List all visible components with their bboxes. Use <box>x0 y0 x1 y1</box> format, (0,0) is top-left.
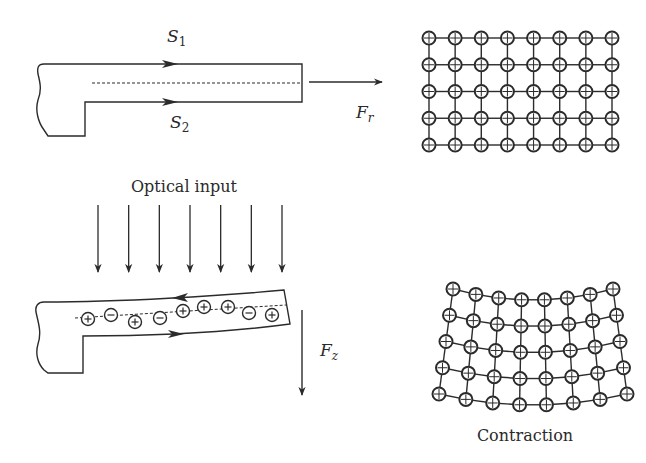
positive-charge <box>82 313 95 326</box>
lattice-atom <box>567 396 580 409</box>
lattice-atom <box>540 398 553 411</box>
lattice-atom <box>447 283 460 296</box>
negative-charge <box>243 307 256 320</box>
lattice-atom <box>606 58 619 71</box>
lattice-atom <box>501 112 514 125</box>
lattice-atom <box>606 139 619 152</box>
negative-charge <box>105 309 118 322</box>
lattice-atom <box>469 288 482 301</box>
charge-distribution <box>82 301 279 329</box>
lattice-atom <box>564 344 577 357</box>
lattice-atom <box>591 367 604 380</box>
lattice-atom <box>513 398 526 411</box>
lattice-atom <box>459 393 472 406</box>
lattice-atom <box>475 32 488 45</box>
lattice-atom <box>579 32 592 45</box>
lattice-atom <box>475 85 488 98</box>
lattice-atom <box>614 335 627 348</box>
lattice-atom <box>443 309 456 322</box>
lattice-atom <box>579 85 592 98</box>
lattice-atom <box>475 112 488 125</box>
lattice-atom <box>589 340 602 353</box>
optical-input-label: Optical input <box>131 177 238 196</box>
lattice-atom <box>449 112 462 125</box>
lattice-atom <box>553 85 566 98</box>
lattice-atom <box>594 393 607 406</box>
lattice-atom <box>423 85 436 98</box>
lattice-atom <box>423 32 436 45</box>
label-s2-sub: 2 <box>182 121 190 135</box>
lattice-atom <box>527 112 540 125</box>
lattice-atom <box>584 288 597 301</box>
lattice-atom <box>501 139 514 152</box>
lattice-atom <box>562 318 575 331</box>
lattice-atom <box>501 85 514 98</box>
lattice-atom <box>539 346 552 359</box>
lattice-atom <box>449 58 462 71</box>
positive-charge <box>198 301 211 314</box>
top-lattice-grid <box>423 32 619 152</box>
lattice-atom <box>553 112 566 125</box>
lattice-atom <box>579 139 592 152</box>
label-s1-sub: 1 <box>179 35 187 49</box>
lattice-atom <box>606 32 619 45</box>
lattice-atom <box>527 58 540 71</box>
label-fr-sub: r <box>368 111 375 125</box>
lattice-atom <box>449 32 462 45</box>
top-cantilever: S1 S2 Fr <box>37 26 382 136</box>
lattice-atom <box>514 372 527 385</box>
lattice-atom <box>462 367 475 380</box>
lattice-atom <box>433 388 446 401</box>
lattice-atom <box>440 335 453 348</box>
lattice-atom <box>489 344 502 357</box>
lattice-atom <box>565 370 578 383</box>
label-fr: Fr <box>355 102 375 125</box>
lattice-atom <box>467 314 480 327</box>
lattice-atom <box>501 32 514 45</box>
lattice-atom <box>423 139 436 152</box>
bottom-cantilever: Optical input Fz <box>36 177 339 395</box>
lattice-atom <box>423 112 436 125</box>
lattice-atom <box>449 139 462 152</box>
positive-charge <box>222 301 235 314</box>
lattice-atom <box>464 340 477 353</box>
lattice-atom <box>606 85 619 98</box>
lattice-atom <box>492 291 505 304</box>
lattice-atom <box>515 320 528 333</box>
lattice-atom <box>527 139 540 152</box>
lattice-atom <box>561 291 574 304</box>
lattice-atom <box>475 58 488 71</box>
lattice-atom <box>538 293 551 306</box>
lattice-atom <box>436 361 449 374</box>
lattice-atom <box>610 309 623 322</box>
lattice-atom <box>515 293 528 306</box>
lattice-atom <box>606 112 619 125</box>
contraction-caption: Contraction <box>477 426 573 445</box>
lattice-atom <box>491 318 504 331</box>
cantilever-diagram: S1 S2 Fr Optical input Fz Contraction <box>0 0 646 463</box>
lattice-atom <box>553 58 566 71</box>
lattice-atom <box>538 320 551 333</box>
label-fz: Fz <box>319 340 339 363</box>
lattice-atom <box>579 58 592 71</box>
positive-charge <box>129 316 142 329</box>
label-s1: S1 <box>167 26 186 49</box>
lattice-atom <box>621 388 634 401</box>
lattice-atom <box>475 139 488 152</box>
positive-charge <box>266 309 279 322</box>
lattice-atom <box>579 112 592 125</box>
lattice-atom <box>514 346 527 359</box>
label-fz-sub: z <box>331 349 339 363</box>
positive-charge <box>177 305 190 318</box>
lattice-atom <box>607 283 620 296</box>
optical-input-arrows <box>98 205 282 272</box>
lattice-atom <box>501 58 514 71</box>
lattice-atom <box>527 32 540 45</box>
lattice-atom <box>449 85 462 98</box>
lattice-atom <box>539 372 552 385</box>
lattice-atom <box>586 314 599 327</box>
lattice-atom <box>488 370 501 383</box>
lattice-atom <box>553 139 566 152</box>
label-s2: S2 <box>170 112 189 135</box>
label-s1-main: S <box>167 26 179 46</box>
